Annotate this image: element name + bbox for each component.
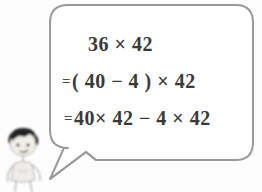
math-line-1-expression: 36 × 42 [88, 33, 153, 55]
math-expression-group: 36 × 42 =( 40 − 4 ) × 42 =40× 42 − 4 × 4… [50, 5, 255, 160]
math-line-1: 36 × 42 [88, 33, 153, 56]
math-line-3-expression: 40× 42 − 4 × 42 [74, 107, 211, 129]
leg-right [30, 181, 32, 192]
eye-left [16, 143, 19, 146]
leg-left [15, 181, 16, 192]
illustration-scene: 36 × 42 =( 40 − 4 ) × 42 =40× 42 − 4 × 4… [0, 0, 262, 192]
math-line-3: =40× 42 − 4 × 42 [64, 107, 211, 130]
cartoon-child-figure [0, 124, 52, 192]
math-line-2-equals: = [62, 73, 71, 89]
math-line-2-expression: ( 40 − 4 ) × 42 [72, 70, 196, 92]
math-line-2: =( 40 − 4 ) × 42 [62, 70, 196, 93]
eye-right [26, 143, 29, 146]
math-line-3-equals: = [64, 110, 73, 126]
